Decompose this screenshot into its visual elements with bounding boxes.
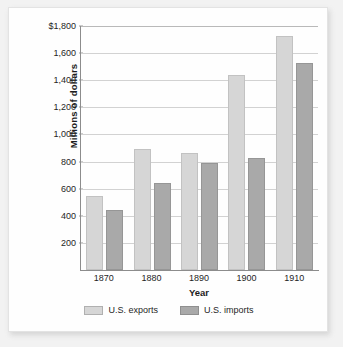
- chart-legend: U.S. exportsU.S. imports: [9, 305, 329, 315]
- legend-label: U.S. exports: [108, 305, 158, 315]
- legend-swatch-icon: [180, 306, 199, 315]
- x-axis-tick-label: 1890: [179, 273, 219, 287]
- y-axis-tick-label: 400: [61, 211, 76, 221]
- y-axis-tick-label: 800: [61, 157, 76, 167]
- bar-imports-1910: [296, 63, 313, 270]
- x-axis-line: [80, 270, 319, 271]
- legend-label: U.S. imports: [204, 305, 254, 315]
- bar-exports-1890: [181, 153, 198, 270]
- x-axis-tick-label: 1870: [84, 273, 124, 287]
- legend-swatch-icon: [84, 306, 103, 315]
- bar-imports-1900: [248, 158, 265, 271]
- y-axis-tick-label: 1,200: [53, 102, 76, 112]
- bar-group-1910: [276, 26, 313, 270]
- bar-imports-1870: [106, 210, 123, 270]
- y-axis-tick-label: 600: [61, 184, 76, 194]
- y-axis-tick-label: 1,000: [53, 129, 76, 139]
- chart-card: Millions of dollars $1,8001,6001,4001,20…: [8, 7, 328, 332]
- bar-exports-1910: [276, 36, 293, 271]
- bar-exports-1880: [134, 149, 151, 270]
- legend-item-exports: U.S. exports: [84, 305, 158, 315]
- plot-area: [80, 26, 318, 270]
- y-axis-tick-label: 1,400: [53, 75, 76, 85]
- y-axis-tick-label: 1,600: [53, 48, 76, 58]
- bars-layer: [81, 26, 318, 270]
- bar-group-1870: [86, 26, 123, 270]
- bar-imports-1890: [201, 163, 218, 270]
- y-axis-tick-label: 200: [61, 238, 76, 248]
- x-axis-tick-labels: 18701880189019001910: [80, 273, 318, 287]
- bar-exports-1870: [86, 196, 103, 270]
- bar-group-1880: [134, 26, 171, 270]
- legend-item-imports: U.S. imports: [180, 305, 254, 315]
- bar-exports-1900: [228, 75, 245, 270]
- x-axis-tick-label: 1900: [227, 273, 267, 287]
- bar-group-1890: [181, 26, 218, 270]
- bar-group-1900: [228, 26, 265, 270]
- y-axis-tick-labels: $1,8001,6001,4001,2001,000800600400200: [33, 26, 79, 270]
- bar-imports-1880: [154, 183, 171, 270]
- plot-wrapper: Millions of dollars $1,8001,6001,4001,20…: [9, 8, 327, 331]
- x-axis-tick-label: 1880: [131, 273, 171, 287]
- y-axis-tick-label: $1,800: [48, 21, 76, 31]
- x-axis-tick-label: 1910: [274, 273, 314, 287]
- x-axis-title: Year: [80, 287, 318, 298]
- figure-root: Millions of dollars $1,8001,6001,4001,20…: [0, 0, 343, 347]
